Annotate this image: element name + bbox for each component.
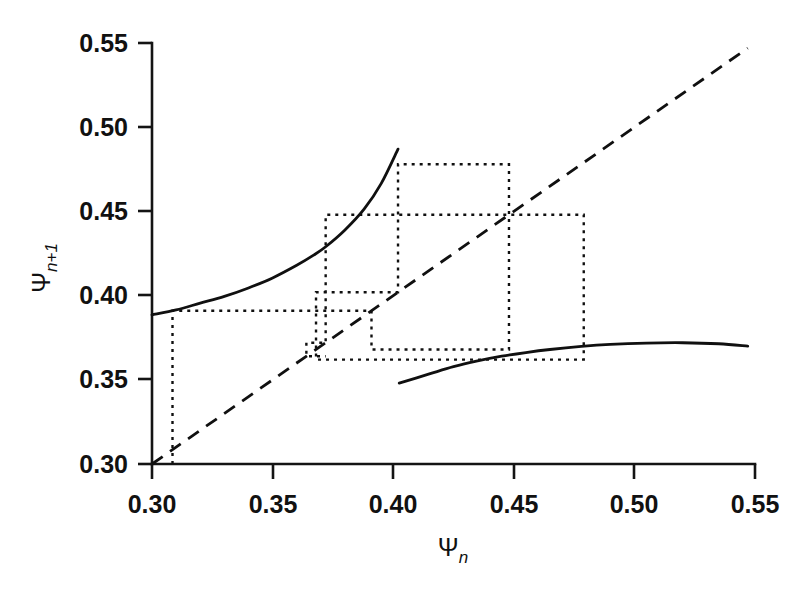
y-tick-label-2: 0.40 (79, 281, 128, 309)
y-tick-marks (138, 43, 152, 464)
x-tick-label-1: 0.35 (249, 490, 298, 518)
x-tick-label-4: 0.50 (610, 490, 659, 518)
x-axis-title-subscript: n (459, 548, 468, 567)
y-tick-label-5: 0.55 (79, 29, 128, 57)
x-tick-label-5: 0.55 (731, 490, 780, 518)
data-layer (152, 48, 748, 464)
x-tick-label-0: 0.30 (128, 490, 177, 518)
svg-text:Ψn: Ψn (438, 533, 468, 567)
x-axis-title: Ψn (438, 533, 468, 567)
svg-text:Ψn+1: Ψn+1 (27, 243, 61, 293)
y-axis-title: Ψn+1 (27, 243, 61, 293)
y-tick-label-4: 0.50 (79, 113, 128, 141)
upper-branch-curve (152, 149, 398, 315)
x-tick-label-3: 0.45 (490, 490, 539, 518)
cobweb-iteration-path (173, 164, 584, 464)
y-tick-label-3: 0.45 (79, 197, 128, 225)
x-tick-labels: 0.30 0.35 0.40 0.45 0.50 0.55 (128, 490, 780, 518)
y-axis-title-base: Ψ (27, 272, 55, 293)
y-tick-label-1: 0.35 (79, 365, 128, 393)
figure-container: 0.55 0.50 0.45 0.40 0.35 0.30 0.30 0.35 … (0, 0, 809, 589)
x-axis-title-base: Ψ (438, 533, 459, 561)
lower-branch-curve (399, 343, 748, 383)
y-tick-labels: 0.55 0.50 0.45 0.40 0.35 0.30 (79, 29, 128, 478)
y-tick-label-0: 0.30 (79, 450, 128, 478)
x-tick-label-2: 0.40 (369, 490, 418, 518)
identity-line (152, 48, 748, 464)
y-axis-title-subscript: n+1 (42, 243, 61, 272)
x-tick-marks (152, 464, 755, 479)
return-map-chart: 0.55 0.50 0.45 0.40 0.35 0.30 0.30 0.35 … (0, 0, 809, 589)
